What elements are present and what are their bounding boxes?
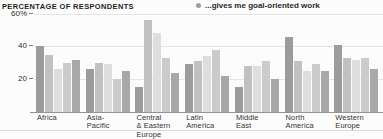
bar-series-4 bbox=[312, 64, 320, 112]
bar-series-4 bbox=[162, 58, 170, 112]
bar-series-4 bbox=[262, 61, 270, 112]
y-tick-label: 40 bbox=[18, 41, 27, 50]
bar-series-1 bbox=[86, 69, 94, 112]
bar-series-3 bbox=[54, 69, 62, 112]
bar-series-5 bbox=[72, 60, 80, 112]
bottom-divider bbox=[0, 130, 383, 131]
bar-group-north bbox=[283, 0, 333, 112]
bar-series-2 bbox=[45, 55, 53, 112]
bar-series-5 bbox=[321, 71, 329, 112]
bar-group-asia- bbox=[84, 0, 134, 112]
y-tick-60: 60% bbox=[0, 9, 33, 18]
bar-series-4 bbox=[361, 58, 369, 112]
bar-group-western bbox=[332, 0, 382, 112]
tick-mark bbox=[29, 45, 33, 46]
category-label: Middle East bbox=[233, 114, 283, 139]
x-axis-line bbox=[30, 112, 383, 113]
bar-series-2 bbox=[95, 63, 103, 112]
bar-group-africa bbox=[34, 0, 84, 112]
bar-series-2 bbox=[294, 61, 302, 112]
y-tick-40: 40 bbox=[0, 41, 33, 50]
bar-series-5 bbox=[122, 71, 130, 112]
bar-group-latin bbox=[183, 0, 233, 112]
category-label: North America bbox=[283, 114, 333, 139]
bar-series-2 bbox=[194, 61, 202, 112]
bar-series-2 bbox=[343, 58, 351, 112]
bar-series-1 bbox=[285, 37, 293, 112]
bar-series-3 bbox=[203, 56, 211, 112]
bar-series-2 bbox=[144, 20, 152, 112]
bar-series-3 bbox=[104, 64, 112, 112]
bar-series-3 bbox=[352, 60, 360, 112]
category-label: Asia- Pacific bbox=[84, 114, 134, 139]
bar-series-1 bbox=[185, 64, 193, 112]
bar-series-4 bbox=[63, 63, 71, 112]
y-tick-20: 20 bbox=[0, 74, 33, 83]
bar-series-1 bbox=[135, 87, 143, 112]
bar-series-1 bbox=[36, 46, 44, 112]
y-tick-label: 20 bbox=[18, 74, 27, 83]
tick-mark bbox=[29, 78, 33, 79]
category-label: Africa bbox=[34, 114, 84, 139]
bar-group-middle bbox=[233, 0, 283, 112]
category-label: Latin America bbox=[183, 114, 233, 139]
bar-series-5 bbox=[171, 73, 179, 112]
bar-chart-panel: PERCENTAGE OF RESPONDENTS ...gives me go… bbox=[0, 0, 383, 139]
x-axis-labels: AfricaAsia- PacificCentral & Eastern Eur… bbox=[34, 114, 382, 139]
tick-mark bbox=[29, 13, 33, 14]
bar-series-5 bbox=[221, 76, 229, 112]
bar-series-5 bbox=[370, 69, 378, 112]
category-label: Central & Eastern Europe bbox=[133, 114, 183, 139]
plot-area bbox=[34, 0, 382, 112]
bar-series-5 bbox=[271, 79, 279, 112]
bar-series-1 bbox=[235, 87, 243, 112]
category-label: Western Europe bbox=[332, 114, 382, 139]
bar-series-3 bbox=[253, 66, 261, 112]
bar-group-central bbox=[133, 0, 183, 112]
bar-series-3 bbox=[153, 33, 161, 112]
bar-series-1 bbox=[334, 45, 342, 112]
bar-series-4 bbox=[212, 50, 220, 112]
bar-series-3 bbox=[303, 71, 311, 112]
y-tick-label: 60% bbox=[11, 9, 27, 18]
bar-series-2 bbox=[244, 66, 252, 112]
bar-series-4 bbox=[113, 79, 121, 112]
